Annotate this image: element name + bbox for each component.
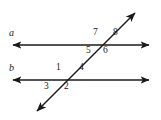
angle-label-2: 2 [64, 81, 69, 91]
angle-label-8: 8 [113, 27, 118, 37]
angle-label-6: 6 [103, 45, 108, 55]
transversal-line [37, 13, 135, 111]
geometry-figure: a b 1 2 3 4 5 6 7 8 [0, 0, 161, 120]
angle-label-7: 7 [93, 27, 98, 37]
angle-label-5: 5 [86, 45, 91, 55]
angle-label-4: 4 [79, 62, 84, 72]
figure-canvas [0, 0, 161, 120]
line-label-a: a [9, 28, 14, 38]
line-label-b: b [9, 63, 14, 73]
angle-label-3: 3 [44, 81, 49, 91]
angle-label-1: 1 [56, 62, 61, 72]
